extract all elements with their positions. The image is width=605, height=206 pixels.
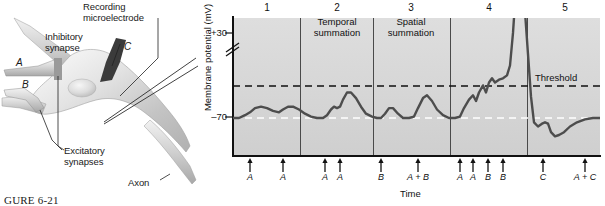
stimulus-arrowhead (500, 158, 505, 163)
neuron-illustration (0, 0, 200, 206)
stimulus-arrowhead (322, 158, 327, 163)
y-axis-label: Membrane potential (mV) (202, 0, 213, 118)
axon-label: Axon (128, 178, 149, 189)
stimulus-label: A + C (570, 172, 600, 182)
stimulus-label: B (488, 172, 518, 182)
figure-root: Recording microelectrode Inhibitory syna… (0, 0, 605, 206)
excitatory-synapses-label: Excitatory synapses (64, 146, 105, 167)
figure-caption: GURE 6-21 (4, 194, 59, 206)
y-tick-mark-plus30 (225, 30, 233, 36)
stimulus-arrowhead (540, 158, 545, 163)
stimulus-arrowhead (457, 158, 462, 163)
input-b-label: B (22, 80, 29, 91)
y-tick-mark-minus70 (225, 114, 233, 120)
inhibitory-synapse-label: Inhibitory synapse (45, 32, 83, 53)
stimulus-arrowhead (247, 158, 252, 163)
panel-number-4: 4 (469, 2, 509, 13)
y-tick-minus70: –70 (203, 111, 227, 122)
stimulus-arrowhead (378, 158, 383, 163)
panel-number-3: 3 (391, 2, 431, 13)
nucleus (68, 79, 96, 97)
panel-number-5: 5 (545, 2, 585, 13)
leader-axon (160, 174, 170, 180)
stimulus-arrowhead (470, 158, 475, 163)
stimulus-label: B (366, 172, 396, 182)
stimulus-arrowhead (485, 158, 490, 163)
recording-microelectrode-label: Recording microelectrode (83, 2, 144, 23)
leader-excitatory-b (40, 110, 62, 150)
x-axis-label: Time (400, 188, 421, 199)
panel-number-1: 1 (247, 2, 287, 13)
stimulus-label: A (268, 172, 298, 182)
input-c-label: C (124, 42, 131, 53)
stimulus-label: A (235, 172, 265, 182)
input-a-label: A (16, 58, 23, 69)
trace-svg (233, 18, 600, 155)
stimulus-arrowhead (415, 158, 420, 163)
stimulus-label: A (325, 172, 355, 182)
stimulus-arrowhead (280, 158, 285, 163)
neuron-diagram: Recording microelectrode Inhibitory syna… (0, 0, 200, 206)
stimulus-arrows (233, 157, 600, 173)
stimulus-label: A + B (403, 172, 433, 182)
stimulus-arrowhead (582, 158, 587, 163)
y-tick-plus30: +30 (203, 27, 227, 38)
stimulus-arrowhead (337, 158, 342, 163)
presynaptic-terminal-a (4, 60, 58, 76)
stimulus-label: C (528, 172, 558, 182)
panel-number-2: 2 (317, 2, 357, 13)
membrane-potential-chart: Membrane potential (mV) +30 –70 1 2 3 4 … (195, 0, 605, 206)
